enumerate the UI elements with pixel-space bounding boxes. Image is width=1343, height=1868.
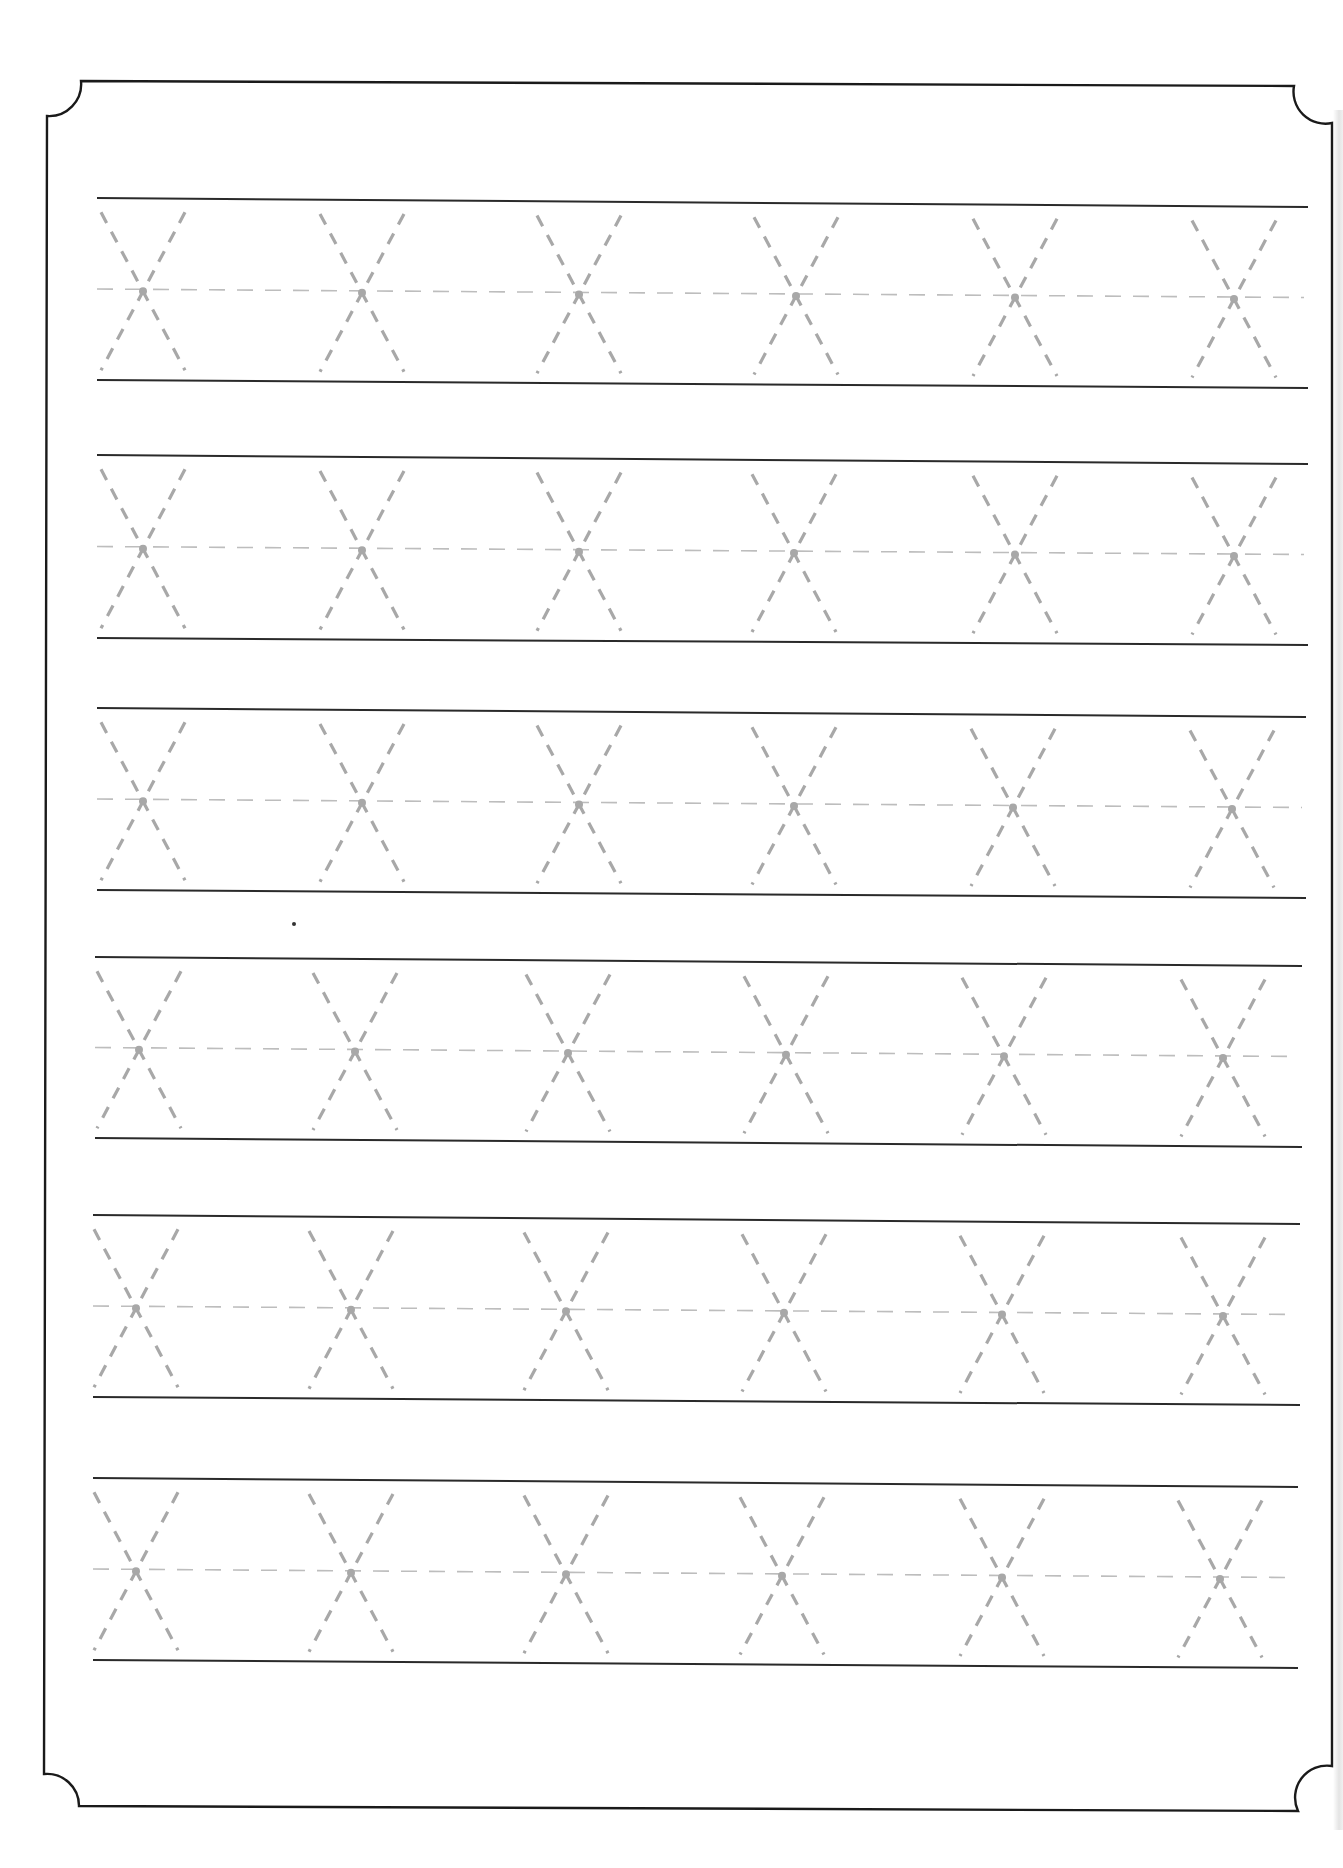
x-crossing-point [139, 797, 147, 805]
trace-letter-x [537, 726, 621, 884]
x-crossing-point [139, 287, 147, 295]
top-guide-line [93, 1215, 1300, 1224]
trace-letter-x [320, 724, 404, 882]
x-crossing-point [347, 1569, 355, 1577]
trace-letter-x [526, 975, 610, 1132]
bottom-guide-line [97, 890, 1306, 898]
trace-letter-x [309, 1494, 393, 1652]
trace-letter-x [320, 471, 404, 630]
tracing-row [95, 957, 1302, 1147]
dashed-midline [93, 1569, 1294, 1578]
decorative-frame [44, 81, 1332, 1811]
trace-letter-x [101, 212, 185, 370]
trace-letter-x [1190, 730, 1274, 887]
trace-letter-x [524, 1233, 608, 1391]
dashed-midline [95, 1048, 1298, 1057]
top-guide-line [95, 957, 1302, 966]
bottom-guide-line [97, 638, 1308, 645]
trace-letter-x [320, 214, 404, 372]
trace-letter-x [742, 1234, 826, 1391]
trace-letter-x [960, 1499, 1044, 1656]
bottom-guide-line [93, 1660, 1298, 1668]
x-crossing-point [139, 545, 147, 553]
bottom-guide-line [93, 1397, 1300, 1405]
trace-letter-x [971, 729, 1055, 886]
trace-letter-x [309, 1231, 393, 1389]
frame-border [44, 81, 1332, 1811]
trace-letter-x [752, 474, 836, 632]
x-crossing-point [780, 1309, 788, 1317]
x-crossing-point [358, 289, 366, 297]
x-crossing-point [1009, 803, 1017, 811]
trace-letter-x [1181, 1237, 1265, 1394]
dashed-midline [97, 799, 1302, 808]
top-guide-line [97, 708, 1306, 717]
dashed-midline [97, 289, 1304, 298]
trace-letter-x [94, 1229, 178, 1387]
x-crossing-point [347, 1306, 355, 1314]
top-guide-line [97, 198, 1308, 207]
bottom-guide-line [95, 1138, 1302, 1147]
trace-letter-x [744, 976, 828, 1133]
trace-letter-x [537, 216, 621, 374]
x-crossing-point [998, 1310, 1006, 1318]
x-crossing-point [782, 1051, 790, 1059]
x-crossing-point [135, 1046, 143, 1054]
page-edge-shadow [1333, 110, 1343, 1830]
x-crossing-point [358, 799, 366, 807]
trace-letter-x [754, 217, 838, 374]
x-crossing-point [132, 1567, 140, 1575]
trace-letter-x [94, 1492, 178, 1650]
x-crossing-point [1219, 1054, 1227, 1062]
dashed-midline [93, 1306, 1296, 1315]
trace-letter-x [537, 473, 621, 631]
trace-letter-x [1181, 979, 1265, 1136]
trace-letter-x [962, 978, 1046, 1135]
x-crossing-point [562, 1570, 570, 1578]
trace-letter-x [960, 1236, 1044, 1393]
tracing-rows [93, 198, 1308, 1668]
tracing-row [97, 455, 1308, 645]
x-crossing-point [358, 546, 366, 554]
trace-letter-x [97, 971, 181, 1128]
tracing-row [93, 1478, 1298, 1668]
bottom-guide-line [97, 380, 1308, 388]
x-crossing-point [1216, 1575, 1224, 1583]
dashed-midline [97, 547, 1304, 555]
x-crossing-point [998, 1573, 1006, 1581]
x-crossing-point [1011, 551, 1019, 559]
tracing-row [97, 198, 1308, 388]
x-crossing-point [1230, 552, 1238, 560]
top-guide-line [97, 455, 1308, 464]
trace-letter-x [101, 722, 185, 880]
x-crossing-point [575, 548, 583, 556]
x-crossing-point [1011, 293, 1019, 301]
top-guide-line [93, 1478, 1298, 1487]
trace-letter-x [101, 469, 185, 628]
x-crossing-point [790, 802, 798, 810]
trace-letter-x [752, 727, 836, 884]
x-crossing-point [575, 800, 583, 808]
tracing-row [97, 708, 1306, 898]
x-crossing-point [351, 1047, 359, 1055]
trace-letter-x [313, 973, 397, 1130]
x-crossing-point [132, 1304, 140, 1312]
x-crossing-point [564, 1049, 572, 1057]
tracing-row [93, 1215, 1300, 1405]
worksheet-canvas [0, 0, 1343, 1868]
x-crossing-point [778, 1572, 786, 1580]
trace-letter-x [1192, 220, 1276, 377]
x-crossing-point [575, 290, 583, 298]
trace-letter-x [973, 476, 1057, 633]
trace-letter-x [1192, 477, 1276, 634]
x-crossing-point [1219, 1312, 1227, 1320]
x-crossing-point [792, 292, 800, 300]
x-crossing-point [1228, 805, 1236, 813]
x-crossing-point [790, 549, 798, 557]
x-crossing-point [562, 1307, 570, 1315]
stray-dot [292, 922, 296, 926]
trace-letter-x [740, 1497, 824, 1654]
trace-letter-x [1178, 1500, 1262, 1657]
x-crossing-point [1000, 1052, 1008, 1060]
trace-letter-x [973, 219, 1057, 376]
